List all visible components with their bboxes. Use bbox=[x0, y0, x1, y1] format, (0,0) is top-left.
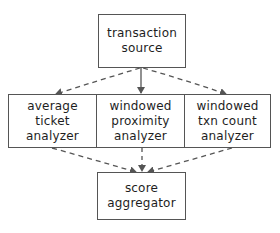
edge-avg-to-agg bbox=[52, 148, 136, 172]
node-windowed-txn-count-analyzer: windowed txn count analyzer bbox=[184, 94, 271, 148]
node-label-line: analyzer bbox=[26, 129, 79, 144]
node-label-line: source bbox=[121, 41, 162, 56]
node-label-line: windowed bbox=[109, 99, 171, 114]
node-label-line: txn count bbox=[198, 114, 257, 129]
node-average-ticket-analyzer: average ticket analyzer bbox=[8, 94, 97, 148]
node-label-line: score bbox=[125, 181, 158, 196]
node-label-line: aggregator bbox=[107, 196, 176, 211]
diagram-canvas: transaction source average ticket analyz… bbox=[0, 0, 280, 233]
node-label-line: transaction bbox=[107, 26, 177, 41]
edge-source-to-avg bbox=[56, 68, 140, 94]
node-transaction-source: transaction source bbox=[98, 14, 186, 68]
node-label-line: ticket bbox=[35, 114, 69, 129]
node-label-line: analyzer bbox=[114, 129, 167, 144]
node-label-line: proximity bbox=[111, 114, 169, 129]
node-label-line: average bbox=[27, 99, 78, 114]
edge-source-to-count bbox=[143, 68, 226, 94]
node-label-line: analyzer bbox=[201, 129, 254, 144]
node-label-line: windowed bbox=[196, 99, 258, 114]
node-score-aggregator: score aggregator bbox=[97, 172, 186, 220]
node-windowed-proximity-analyzer: windowed proximity analyzer bbox=[96, 94, 185, 148]
edge-count-to-agg bbox=[148, 148, 232, 172]
